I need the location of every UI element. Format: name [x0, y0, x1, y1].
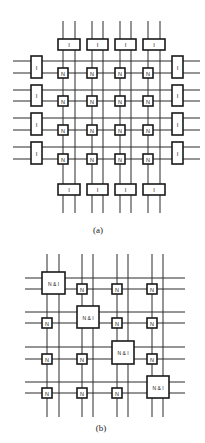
node-a-r4-c2-label: N	[90, 157, 94, 163]
node-a-r2-c1-label: N	[61, 99, 65, 105]
io-box-right-2: I	[172, 85, 183, 106]
node-a-r4-c4: N	[143, 154, 153, 164]
node-a-r1-c3-label: N	[118, 71, 122, 77]
node-b-r1-c2-label: N	[80, 287, 84, 293]
node-b-r4-c1: N	[42, 388, 52, 398]
node-b-r4-c2-label: N	[80, 391, 84, 397]
node-a-r3-c4: N	[143, 125, 153, 135]
io-box-right-3: I	[172, 113, 183, 135]
io-box-top-1: I	[58, 39, 80, 50]
node-b-r1-c3-label: N	[115, 287, 119, 293]
node-a-r1-c3: N	[115, 68, 125, 78]
node-b-r4-c3-label: N	[115, 391, 119, 397]
node-a-r3-c2: N	[87, 125, 97, 135]
node-b-r2-c1: N	[42, 318, 52, 328]
node-b-r4-c3: N	[112, 388, 122, 398]
node-b-r2-c3: N	[112, 318, 122, 328]
io-box-left-4: I	[31, 142, 42, 164]
node-io-b-r1-c1: N & I	[42, 272, 65, 294]
node-a-r2-c3-label: N	[118, 99, 122, 105]
figure-b-caption: (b)	[96, 423, 107, 433]
node-a-r1-c4: N	[143, 68, 153, 78]
node-a-r1-c1-label: N	[61, 71, 65, 77]
figure-b-mesh-with-diagonal-io: N & INNNNN & INNNNN & INNNNN & I	[25, 254, 185, 417]
io-box-bottom-2: I	[87, 184, 108, 195]
node-b-r4-c2: N	[77, 388, 87, 398]
node-b-r3-c2: N	[77, 354, 87, 364]
node-a-r2-c2-label: N	[90, 99, 94, 105]
node-a-r3-c3: N	[115, 125, 125, 135]
node-io-b-r3-c3: N & I	[112, 341, 134, 364]
node-b-r2-c3-label: N	[115, 321, 119, 327]
io-box-left-2: I	[31, 85, 42, 106]
node-a-r1-c2: N	[87, 68, 97, 78]
node-io-b-r3-c3-label: N & I	[117, 350, 128, 356]
node-a-r4-c3: N	[115, 154, 125, 164]
io-box-top-3: I	[115, 39, 136, 50]
node-b-r1-c2: N	[77, 284, 87, 294]
node-a-r3-c1: N	[58, 125, 68, 135]
node-a-r4-c3-label: N	[118, 157, 122, 163]
node-a-r4-c1: N	[58, 154, 68, 164]
node-a-r2-c2: N	[87, 96, 97, 106]
io-box-right-4: I	[172, 142, 183, 164]
node-io-b-r2-c2-label: N & I	[82, 315, 93, 321]
io-box-left-3: I	[31, 113, 42, 135]
node-b-r1-c4-label: N	[150, 287, 154, 293]
node-b-r4-c1-label: N	[45, 391, 49, 397]
node-b-r3-c1-label: N	[45, 357, 49, 363]
mesh-diagram: IIIIIIIIIIIIIIIINNNNNNNNNNNNNNNN (a) N &…	[0, 0, 205, 443]
node-io-b-r1-c1-label: N & I	[48, 281, 59, 287]
node-a-r2-c3: N	[115, 96, 125, 106]
node-a-r4-c2: N	[87, 154, 97, 164]
node-a-r4-c4-label: N	[146, 157, 150, 163]
node-io-b-r4-c4: N & I	[147, 376, 169, 398]
node-b-r2-c4: N	[147, 318, 157, 328]
figure-a-mesh-with-peripheral-io: IIIIIIIIIIIIIIIINNNNNNNNNNNNNNNN	[13, 21, 200, 213]
io-box-right-1: I	[172, 56, 183, 78]
node-a-r1-c1: N	[58, 68, 68, 78]
node-b-r2-c4-label: N	[150, 321, 154, 327]
io-box-bottom-4: I	[143, 184, 165, 195]
node-b-r1-c3: N	[112, 284, 122, 294]
node-b-r3-c1: N	[42, 354, 52, 364]
node-a-r2-c4-label: N	[146, 99, 150, 105]
node-a-r1-c4-label: N	[146, 71, 150, 77]
node-a-r2-c4: N	[143, 96, 153, 106]
node-a-r3-c2-label: N	[90, 128, 94, 134]
node-b-r3-c2-label: N	[80, 357, 84, 363]
node-a-r4-c1-label: N	[61, 157, 65, 163]
node-a-r3-c4-label: N	[146, 128, 150, 134]
node-b-r3-c4: N	[147, 354, 157, 364]
io-box-bottom-1: I	[58, 184, 80, 195]
node-a-r2-c1: N	[58, 96, 68, 106]
node-b-r1-c4: N	[147, 284, 157, 294]
node-io-b-r2-c2: N & I	[77, 306, 99, 328]
figure-a-caption: (a)	[93, 225, 103, 235]
node-a-r3-c1-label: N	[61, 128, 65, 134]
node-a-r3-c3-label: N	[118, 128, 122, 134]
io-box-top-4: I	[143, 39, 165, 50]
io-box-bottom-3: I	[115, 184, 136, 195]
node-b-r3-c4-label: N	[150, 357, 154, 363]
io-box-top-2: I	[87, 39, 108, 50]
node-a-r1-c2-label: N	[90, 71, 94, 77]
io-box-left-1: I	[31, 56, 42, 78]
node-io-b-r4-c4-label: N & I	[152, 385, 163, 391]
node-b-r2-c1-label: N	[45, 321, 49, 327]
